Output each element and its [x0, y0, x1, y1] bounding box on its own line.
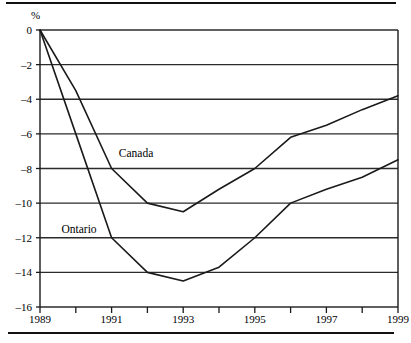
- series-label-canada: Canada: [119, 147, 153, 159]
- gridlines-group: [40, 30, 398, 307]
- chart-figure: % 0–2–4–6–8–10–12–14–16 1989199119931995…: [0, 0, 411, 343]
- y-axis-tick-label: –4: [2, 94, 32, 105]
- y-axis-tick-label: –14: [2, 267, 32, 278]
- x-axis-tick-label: 1989: [18, 314, 62, 325]
- x-axis-tick-label: 1993: [161, 314, 205, 325]
- series-lines-group: [40, 30, 398, 281]
- series-line-ontario: [40, 30, 398, 281]
- x-axis-tick-label: 1997: [304, 314, 348, 325]
- series-label-ontario: Ontario: [61, 223, 96, 235]
- y-axis-tick-label: –2: [2, 59, 32, 70]
- y-axis-tick-label: –12: [2, 232, 32, 243]
- x-axis-tick-label: 1991: [90, 314, 134, 325]
- y-axis-tick-label: –8: [2, 163, 32, 174]
- y-axis-tick-label: 0: [2, 25, 32, 36]
- x-axis-tick-label: 1995: [233, 314, 277, 325]
- x-axis-tick-label: 1999: [376, 314, 411, 325]
- x-axis-ticks-group: [40, 307, 398, 313]
- y-axis-tick-label: –6: [2, 128, 32, 139]
- y-axis-tick-label: –16: [2, 302, 32, 313]
- line-chart-plot: [0, 0, 411, 343]
- y-axis-tick-label: –10: [2, 198, 32, 209]
